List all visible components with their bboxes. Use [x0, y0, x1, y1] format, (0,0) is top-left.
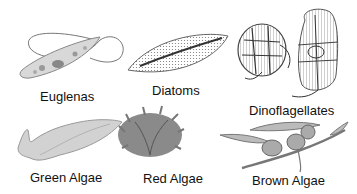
label-diatoms: Diatoms [152, 84, 200, 97]
diatom-illustration [128, 34, 228, 72]
euglena-illustration [20, 33, 123, 78]
label-red-algae: Red Algae [143, 172, 203, 185]
green-algae-illustration [18, 120, 122, 160]
label-euglenas: Euglenas [40, 90, 94, 103]
label-green-algae: Green Algae [30, 171, 102, 184]
label-brown-algae: Brown Algae [252, 174, 325, 187]
dinoflagellate-tall-illustration [292, 9, 338, 97]
label-dinoflagellates: Dinoflagellates [249, 104, 334, 117]
red-algae-illustration [118, 106, 184, 157]
algae-diagram: Euglenas Diatoms Dinoflagellates Green A… [0, 0, 357, 194]
dinoflagellate-round-illustration [238, 24, 290, 79]
brown-algae-illustration [220, 122, 348, 172]
